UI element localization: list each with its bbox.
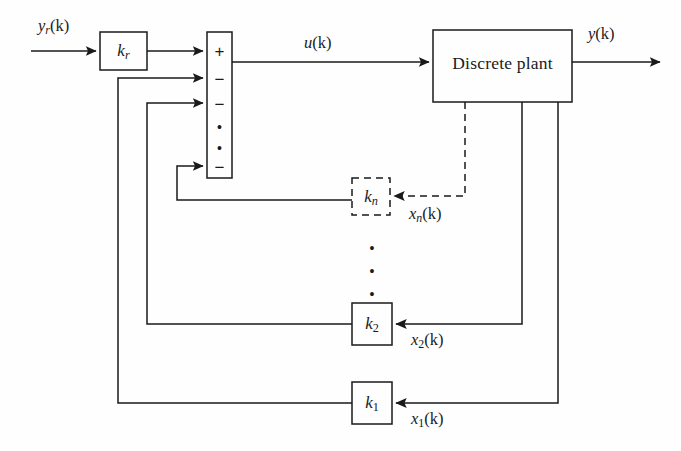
gain-1-feedback-return [118,78,352,403]
plant-output-label: y(k) [588,26,615,43]
gain-2-label: k2 [352,315,392,335]
state-n-label: xn(k) [409,206,442,225]
state-2-arg: (k) [424,330,443,349]
reference-gain-subscript: r [125,48,130,62]
reference-input-label: yr(k) [38,18,69,37]
state-n-tap-line [394,102,465,196]
gain-2-feedback-return [147,103,352,324]
gain-n-subscript: n [372,194,378,208]
gain-2-subscript: 2 [373,321,379,335]
gain-column-vertical-ellipsis: • • • [357,243,387,300]
state-2-label: x2(k) [411,332,444,351]
state-1-arg: (k) [424,409,443,428]
state-1-tap-line [396,102,558,403]
sum-sign-minus-3: − [207,159,232,176]
diagram-canvas [0,0,681,451]
reference-input-arg: (k) [50,16,69,35]
discrete-plant-label: Discrete plant [433,55,572,73]
sum-vertical-ellipsis: •• [207,122,232,154]
state-n-arg: (k) [422,204,441,223]
plant-output-arg: (k) [595,24,614,43]
gain-1-label: k1 [352,394,392,414]
control-signal-label: u(k) [304,35,332,52]
gain-n-feedback-return [177,166,352,200]
sum-sign-plus: + [207,43,232,60]
gain-n-label: kn [352,188,390,208]
sum-sign-minus-1: − [207,71,232,88]
reference-gain-label: kr [100,42,147,62]
sum-sign-minus-2: − [207,96,232,113]
gain-1-subscript: 1 [373,400,379,414]
state-1-label: x1(k) [411,411,444,430]
block-diagram-figure: + − − •• − kr Discrete plant kn k2 k1 • … [0,0,681,451]
control-signal-arg: (k) [312,33,331,52]
